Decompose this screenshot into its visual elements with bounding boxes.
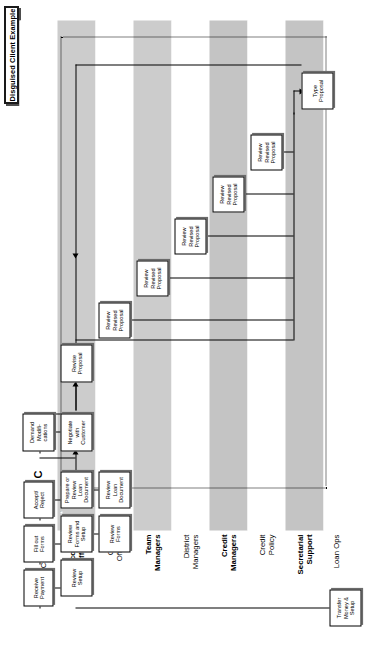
diagram-extra-layer: Write Proposal (0, 0, 368, 655)
